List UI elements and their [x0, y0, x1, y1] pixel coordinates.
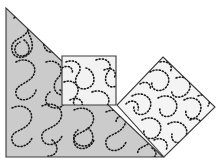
dissection-figure	[0, 0, 223, 166]
square-upright-group	[62, 56, 116, 110]
figure-root	[0, 0, 223, 166]
